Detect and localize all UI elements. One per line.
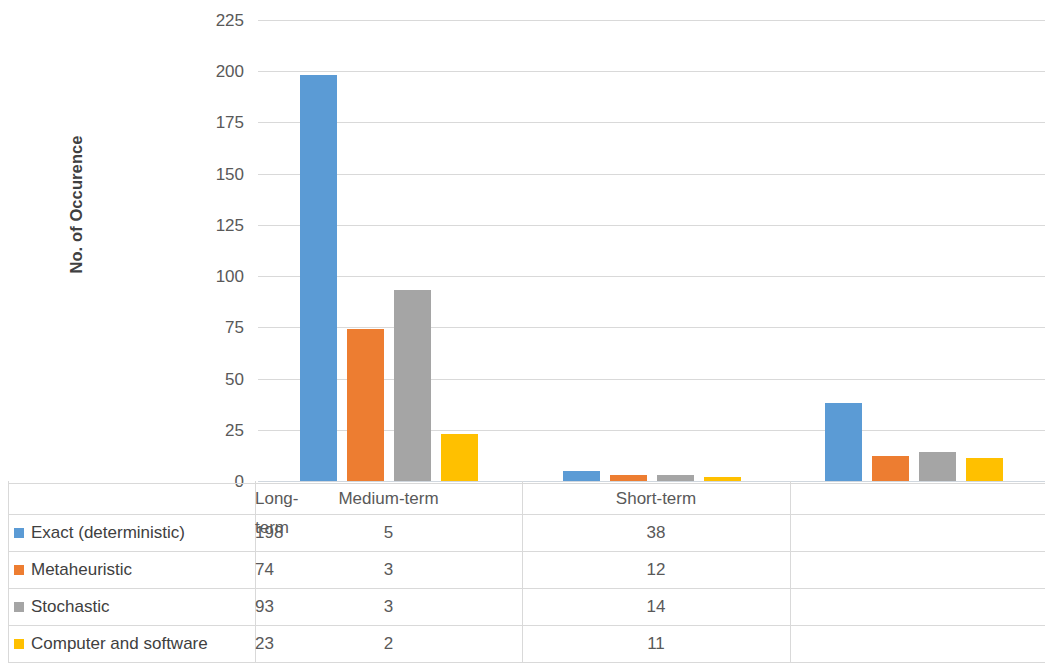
- y-axis-tick-125: 125: [150, 217, 244, 234]
- table-cell-value: 3: [255, 588, 522, 625]
- bar-long-term-series-1: [300, 75, 337, 481]
- y-axis-title: No. of Occurence: [67, 90, 86, 320]
- gridline-175: [258, 122, 1045, 123]
- table-column-header-medium-term: Medium-term: [255, 484, 522, 513]
- plot-area: [258, 0, 1045, 483]
- table-row: Computer and software: [8, 625, 255, 662]
- gridline-200: [258, 71, 1045, 72]
- y-axis-tick-labels: 2252001751501251007550250: [150, 0, 244, 483]
- bar-short-term-series-1: [825, 403, 862, 481]
- table-cell-value: 11: [522, 625, 790, 662]
- y-axis-tick-150: 150: [150, 166, 244, 183]
- series-label: Exact (deterministic): [31, 523, 185, 543]
- gridline-100: [258, 276, 1045, 277]
- legend-swatch-icon: [14, 602, 24, 612]
- table-cell-value: 14: [522, 588, 790, 625]
- legend-swatch-icon: [14, 528, 24, 538]
- table-row: Stochastic: [8, 588, 255, 625]
- legend-swatch-icon: [14, 565, 24, 575]
- series-label: Stochastic: [31, 597, 109, 617]
- gridline-150: [258, 174, 1045, 175]
- y-axis-tick-25: 25: [150, 422, 244, 439]
- y-axis-tick-50: 50: [150, 371, 244, 388]
- y-axis-tick-75: 75: [150, 319, 244, 336]
- table-row: Metaheuristic: [8, 551, 255, 588]
- bar-long-term-series-3: [394, 290, 431, 481]
- table-row: Exact (deterministic): [8, 514, 255, 551]
- table-column-divider: [790, 481, 791, 663]
- y-axis-tick-225: 225: [150, 12, 244, 29]
- table-cell-value: 12: [522, 551, 790, 588]
- series-label: Computer and software: [31, 634, 208, 654]
- bar-short-term-series-3: [919, 452, 956, 481]
- data-table: Long-termMedium-termShort-termExact (det…: [8, 481, 1045, 663]
- bar-long-term-series-2: [347, 329, 384, 481]
- gridline-225: [258, 20, 1045, 21]
- gridline-75: [258, 327, 1045, 328]
- table-cell-value: 38: [522, 514, 790, 551]
- bar-chart: No. of Occurence 22520017515012510075502…: [0, 0, 1045, 483]
- table-cell-value: 2: [255, 625, 522, 662]
- y-axis-tick-200: 200: [150, 63, 244, 80]
- y-axis-tick-175: 175: [150, 114, 244, 131]
- table-cell-value: 5: [255, 514, 522, 551]
- legend-swatch-icon: [14, 639, 24, 649]
- bar-short-term-series-4: [966, 458, 1003, 481]
- gridline-125: [258, 225, 1045, 226]
- bar-medium-term-series-1: [563, 471, 600, 481]
- table-column-header-short-term: Short-term: [522, 484, 790, 513]
- bar-short-term-series-2: [872, 456, 909, 481]
- series-label: Metaheuristic: [31, 560, 132, 580]
- table-cell-value: 3: [255, 551, 522, 588]
- bar-long-term-series-4: [441, 434, 478, 481]
- y-axis-tick-100: 100: [150, 268, 244, 285]
